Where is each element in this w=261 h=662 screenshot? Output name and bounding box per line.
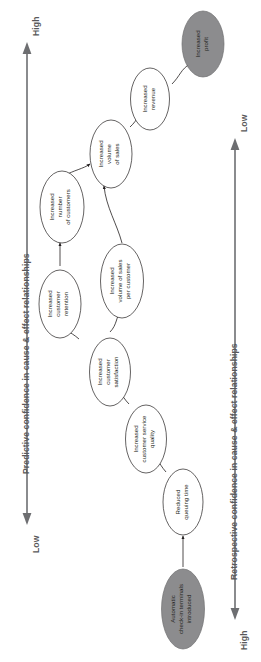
node-service-line-1: customer service bbox=[140, 415, 147, 462]
diagram-canvas: Automatic check-in terminals introduced … bbox=[0, 0, 261, 662]
left-axis-title: Predictive confidence in cause & effect … bbox=[21, 253, 31, 474]
node-terminals-line-2: introduced bbox=[185, 595, 192, 624]
edge-revenue-profit bbox=[172, 64, 190, 84]
node-profit-line-1: profit bbox=[202, 37, 209, 51]
node-customers-line-0: Increased bbox=[48, 193, 55, 220]
right-axis-title: Retrospective confidence in cause & effe… bbox=[229, 343, 239, 580]
node-retention-line-2: retention bbox=[62, 292, 69, 316]
node-retention[interactable]: Increased customer retention bbox=[39, 270, 81, 338]
node-sales-per-customer-line-2: per customer bbox=[124, 263, 131, 299]
left-axis-high-label: High bbox=[31, 17, 41, 37]
node-satisfaction[interactable]: Increased customer satisfaction bbox=[90, 338, 131, 406]
node-customers-line-2: of customers bbox=[64, 189, 71, 224]
right-axis-low-label: Low bbox=[239, 115, 249, 132]
node-sales-volume[interactable]: Increased volume of sales bbox=[90, 120, 132, 188]
causal-chain-diagram: Automatic check-in terminals introduced … bbox=[0, 0, 261, 662]
left-axis-low-label: Low bbox=[31, 536, 41, 553]
node-revenue-line-0: Increased bbox=[141, 85, 148, 112]
node-sales-volume-line-0: Increased bbox=[97, 140, 104, 167]
node-sales-volume-line-1: volume bbox=[105, 143, 112, 164]
node-profit-line-0: Increased bbox=[194, 30, 201, 57]
edge-salespercustomer-salesvolume bbox=[104, 186, 122, 243]
node-service-line-2: quality bbox=[148, 429, 155, 448]
node-queuing-line-0: Reduced bbox=[174, 490, 181, 515]
right-axis-high-label: High bbox=[239, 631, 249, 651]
node-service-line-0: Increased bbox=[132, 425, 139, 452]
node-terminals[interactable]: Automatic check-in terminals introduced bbox=[162, 569, 205, 649]
node-satisfaction-line-2: satisfaction bbox=[112, 356, 119, 387]
node-service[interactable]: Increased customer service quality bbox=[126, 405, 167, 473]
node-revenue[interactable]: Increased revenue bbox=[131, 68, 170, 130]
node-queuing-line-1: queuing time bbox=[182, 484, 189, 520]
node-sales-per-customer-line-1: volume of sales bbox=[116, 259, 123, 302]
node-customers[interactable]: Increased number of customers bbox=[40, 171, 84, 243]
node-sales-per-customer[interactable]: Increased volume of sales per customer bbox=[101, 244, 144, 318]
node-sales-per-customer-line-0: Increased bbox=[108, 267, 115, 294]
node-satisfaction-line-0: Increased bbox=[96, 358, 103, 385]
node-retention-line-0: Increased bbox=[46, 290, 53, 317]
node-retention-line-1: customer bbox=[54, 291, 61, 316]
node-terminals-line-0: Automatic bbox=[169, 595, 176, 623]
node-satisfaction-line-1: customer bbox=[104, 359, 111, 384]
node-profit[interactable]: Increased profit bbox=[182, 11, 224, 77]
node-revenue-line-1: revenue bbox=[149, 87, 156, 110]
node-terminals-line-1: check-in terminals bbox=[177, 584, 184, 634]
node-customers-line-1: number bbox=[56, 197, 63, 218]
node-queuing[interactable]: Reduced queuing time bbox=[163, 469, 203, 535]
node-sales-volume-line-2: of sales bbox=[113, 143, 120, 164]
